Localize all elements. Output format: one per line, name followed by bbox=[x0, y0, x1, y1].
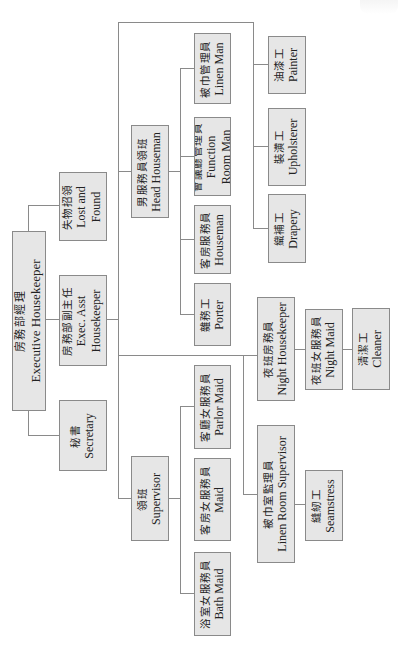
node-label-zh: 夜班房務員 bbox=[262, 303, 275, 396]
node-label-zh: 房務部副主任 bbox=[61, 286, 74, 355]
node-label-zh: 會議廳管理員 bbox=[194, 122, 204, 191]
node-bath-maid: 浴室女服務員Bath Maid bbox=[194, 552, 231, 636]
node-label-en: Maid bbox=[212, 465, 227, 534]
page-corner-shadow bbox=[360, 0, 398, 14]
node-label-zh: 裝潢工 bbox=[273, 119, 286, 176]
node-label-zh: 男服務員領班 bbox=[136, 132, 149, 212]
node-label-en: Found bbox=[90, 184, 105, 230]
node-label-en: Supervisor bbox=[149, 473, 164, 525]
connector bbox=[45, 319, 59, 320]
connector bbox=[253, 64, 268, 65]
connector bbox=[243, 494, 257, 495]
node-label-zh: 被巾管理員 bbox=[198, 40, 211, 98]
connector bbox=[118, 498, 131, 499]
node-label-en: Night Housekeeper bbox=[275, 303, 290, 396]
connector bbox=[180, 156, 194, 157]
node-linen-room-supervisor: 被巾室監理員Linen Room Supervisor bbox=[257, 425, 295, 563]
connector bbox=[168, 498, 180, 499]
connector bbox=[342, 349, 352, 350]
node-label-en: Executive Housekeeper bbox=[28, 259, 44, 382]
node-function-room-man: 會議廳管理員FunctionRoom Man bbox=[194, 117, 231, 196]
node-label-en: Lost and bbox=[75, 184, 90, 230]
node-label-zh: 清潔工 bbox=[357, 330, 370, 367]
node-exec-asst-housekeeper: 房務部副主任Exec. AsstHousekeeper bbox=[59, 275, 107, 366]
node-label-en: Parlor Maid bbox=[212, 373, 227, 442]
node-label-en: Function bbox=[204, 122, 219, 191]
connector bbox=[180, 314, 194, 315]
connector bbox=[28, 410, 29, 435]
node-lost-and-found: 失物招領Lost andFound bbox=[59, 172, 107, 241]
node-label-zh: 雜務工 bbox=[198, 297, 211, 332]
node-label-en: Bath Maid bbox=[212, 560, 227, 629]
node-label-en: Housekeeper bbox=[90, 286, 105, 355]
node-label-en: Painter bbox=[286, 48, 301, 83]
node-label-zh: 領班 bbox=[136, 473, 149, 525]
node-label-en: Cleaner bbox=[370, 330, 385, 367]
connector bbox=[118, 171, 131, 172]
node-upholsterer: 裝潢工Upholsterer bbox=[268, 108, 306, 186]
connector bbox=[118, 355, 257, 356]
connector bbox=[180, 239, 194, 240]
node-label-en: Secretary bbox=[82, 413, 97, 458]
connector bbox=[168, 171, 180, 172]
connector bbox=[28, 205, 29, 231]
node-label-zh: 失物招領 bbox=[61, 184, 74, 230]
node-label-en: Linen Man bbox=[212, 40, 227, 98]
node-night-housekeeper: 夜班房務員Night Housekeeper bbox=[257, 297, 295, 401]
connector bbox=[180, 406, 194, 407]
node-label-en: Drapery bbox=[286, 209, 301, 248]
node-label-en: Night Maid bbox=[323, 315, 338, 384]
node-label-zh: 房務部經理 bbox=[14, 259, 28, 382]
node-label-zh: 浴室女服務員 bbox=[198, 560, 211, 629]
node-label-zh: 夜班女服務員 bbox=[310, 315, 323, 384]
node-porter: 雜務工Porter bbox=[194, 283, 231, 346]
node-label-en: Linen Room Supervisor bbox=[275, 436, 290, 551]
connector bbox=[253, 22, 254, 229]
node-head-houseman: 男服務員領班Head Houseman bbox=[131, 125, 169, 218]
connector bbox=[253, 228, 268, 229]
node-cleaner: 清潔工Cleaner bbox=[352, 308, 390, 390]
node-label-zh: 客房服務員 bbox=[198, 211, 211, 269]
node-parlor-maid: 客廳女服務員Parlor Maid bbox=[194, 365, 231, 449]
connector bbox=[180, 68, 181, 314]
node-label-zh: 被巾室監理員 bbox=[262, 436, 275, 551]
node-label-en: Porter bbox=[212, 297, 227, 332]
node-maid: 客房女服務員Maid bbox=[194, 458, 231, 541]
node-label-en: Seamstress bbox=[323, 479, 338, 532]
connector bbox=[180, 593, 194, 594]
connector bbox=[243, 355, 244, 495]
node-label-zh: 秘書 bbox=[69, 413, 82, 458]
node-label-en: Exec. Asst bbox=[75, 286, 90, 355]
node-label-en: Houseman bbox=[212, 211, 227, 269]
node-secretary: 秘書Secretary bbox=[59, 400, 107, 471]
connector bbox=[28, 435, 59, 436]
connector bbox=[28, 205, 59, 206]
connector bbox=[253, 146, 268, 147]
node-night-maid: 夜班女服務員Night Maid bbox=[305, 309, 343, 390]
node-painter: 油漆工Painter bbox=[268, 36, 306, 94]
node-label-zh: 縫紉工 bbox=[310, 479, 323, 532]
node-label-en: Upholsterer bbox=[286, 119, 301, 176]
connector bbox=[118, 22, 253, 23]
node-supervisor: 領班Supervisor bbox=[131, 456, 169, 541]
node-label-zh: 織補工 bbox=[273, 209, 286, 248]
node-executive-housekeeper: 房務部經理Executive Housekeeper bbox=[12, 231, 46, 411]
node-seamstress: 縫紉工Seamstress bbox=[305, 470, 343, 541]
connector bbox=[106, 319, 118, 320]
connector bbox=[180, 68, 194, 69]
node-linen-man: 被巾管理員Linen Man bbox=[194, 33, 231, 104]
node-label-zh: 客房女服務員 bbox=[198, 465, 211, 534]
connector bbox=[295, 349, 305, 350]
node-label-en: Head Houseman bbox=[149, 132, 164, 212]
node-drapery: 織補工Drapery bbox=[268, 194, 306, 263]
connector bbox=[180, 406, 181, 593]
node-label-zh: 油漆工 bbox=[273, 48, 286, 83]
node-houseman: 客房服務員Houseman bbox=[194, 205, 231, 274]
node-label-zh: 客廳女服務員 bbox=[198, 373, 211, 442]
node-label-en: Room Man bbox=[219, 122, 231, 191]
connector bbox=[118, 22, 119, 498]
connector bbox=[295, 504, 305, 505]
